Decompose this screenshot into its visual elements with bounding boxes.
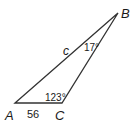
triangle-abc <box>15 13 118 103</box>
vertex-a-label: A <box>4 108 14 123</box>
side-c-label: c <box>63 44 69 58</box>
vertex-c-label: C <box>55 108 65 123</box>
side-ac-label: 56 <box>27 108 39 120</box>
angle-c-label: 123° <box>45 92 66 103</box>
vertex-b-label: B <box>121 6 130 21</box>
angle-b-label: 17° <box>84 42 99 53</box>
triangle-diagram: A B C c 56 17° 123° <box>0 0 134 126</box>
